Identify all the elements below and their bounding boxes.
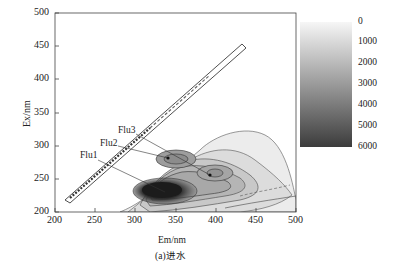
x-tick-label: 300 <box>127 214 142 225</box>
colorbar-label: 5000 <box>358 120 377 130</box>
annotation-flu1: Flu1 <box>80 150 97 160</box>
x-tick-label: 500 <box>288 214 303 225</box>
x-tick-label: 200 <box>47 214 62 225</box>
y-tick-label: 350 <box>34 106 49 117</box>
y-tick-label: 400 <box>34 72 49 83</box>
colorbar-label: 1000 <box>358 36 377 46</box>
colorbar-label: 0 <box>358 16 363 26</box>
colorbar <box>300 22 352 147</box>
y-tick-label: 250 <box>34 172 49 183</box>
figure-caption: (a)进水 <box>155 248 186 262</box>
y-tick-label: 500 <box>34 6 49 17</box>
x-tick-label: 400 <box>208 214 223 225</box>
x-tick-label: 350 <box>168 214 183 225</box>
x-tick-label: 250 <box>87 214 102 225</box>
y-axis-ticks <box>55 13 59 212</box>
colorbar-label: 3000 <box>358 78 377 88</box>
colorbar-label: 6000 <box>358 141 377 151</box>
annotation-flu2: Flu2 <box>100 138 117 148</box>
x-axis-label: Em/nm <box>158 235 186 245</box>
y-axis-label: Ex/nm <box>21 100 32 127</box>
colorbar-label: 2000 <box>358 57 377 67</box>
eem-contour-plot <box>0 0 403 268</box>
contour-region <box>65 44 296 212</box>
y-tick-label: 300 <box>34 139 49 150</box>
colorbar-label: 4000 <box>358 99 377 109</box>
x-tick-label: 450 <box>248 214 263 225</box>
y-tick-label: 450 <box>34 39 49 50</box>
annotation-flu3: Flu3 <box>118 125 135 135</box>
